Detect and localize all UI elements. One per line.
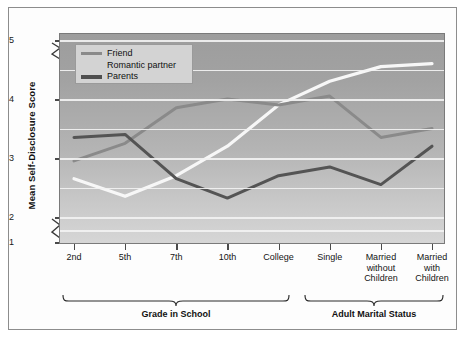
group-label-grade-in-school: Grade in School xyxy=(61,309,291,319)
x-tick-mark xyxy=(176,244,177,250)
y-tick-label: 4 xyxy=(0,95,14,104)
x-tick-mark xyxy=(330,244,331,250)
x-tick-label: MarriedwithChildren xyxy=(400,252,464,284)
legend-label-parents: Parents xyxy=(107,71,138,83)
y-tick-label: 5 xyxy=(0,36,14,45)
y-tick-label: 2 xyxy=(0,213,14,222)
gridline xyxy=(60,129,444,131)
brace-adult-marital-status xyxy=(303,294,445,307)
legend-label-friend: Friend xyxy=(107,48,133,60)
legend: Friend Romantic partner Parents xyxy=(75,44,193,84)
y-tick-label: 1 xyxy=(0,238,14,247)
legend-swatch-romantic-partner xyxy=(81,64,102,67)
gridline xyxy=(60,217,444,219)
group-label-adult-marital-status: Adult Marital Status xyxy=(303,309,445,319)
x-tick-mark xyxy=(227,244,228,250)
figure-panel: Mean Self-Disclosure Score 12345 Friend … xyxy=(8,7,457,330)
x-tick-mark xyxy=(432,244,433,250)
legend-swatch-parents xyxy=(81,75,102,79)
x-tick-mark xyxy=(381,244,382,250)
gridline xyxy=(60,230,444,232)
legend-item-friend: Friend xyxy=(81,48,188,60)
legend-swatch-friend xyxy=(81,52,102,55)
legend-item-romantic-partner: Romantic partner xyxy=(81,60,188,72)
y-tick-label: 3 xyxy=(0,154,14,163)
x-tick-mark xyxy=(279,244,280,250)
x-tick-mark xyxy=(74,244,75,250)
gridline xyxy=(60,40,444,42)
gridline xyxy=(60,158,444,160)
gridline xyxy=(60,188,444,190)
brace-grade-in-school xyxy=(61,294,291,307)
x-tick-mark xyxy=(125,244,126,250)
y-axis-title: Mean Self-Disclosure Score xyxy=(26,61,37,231)
legend-item-parents: Parents xyxy=(81,71,188,83)
legend-label-romantic-partner: Romantic partner xyxy=(107,60,176,72)
gridline xyxy=(60,99,444,101)
